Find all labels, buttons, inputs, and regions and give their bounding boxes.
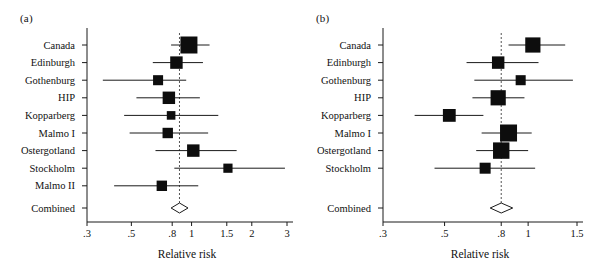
x-axis-tick-label: 1.5 bbox=[570, 228, 583, 239]
combined-effect-diamond bbox=[490, 203, 513, 213]
study-row: Ostergotland bbox=[317, 142, 528, 158]
study-label: HIP bbox=[58, 92, 75, 103]
study-row: Canada bbox=[340, 37, 566, 52]
x-axis-tick-label: .8 bbox=[168, 228, 176, 239]
forest-plot-figure: (a) .3.5.811.523Relative riskCanadaEdinb… bbox=[0, 0, 591, 271]
study-label: Malmo II bbox=[35, 180, 75, 191]
study-label: Kopparberg bbox=[321, 110, 372, 121]
panel-a: (a) .3.5.811.523Relative riskCanadaEdinb… bbox=[0, 0, 295, 271]
study-row: Malmo I bbox=[39, 128, 209, 139]
point-estimate-marker bbox=[493, 142, 509, 158]
point-estimate-marker bbox=[157, 181, 167, 191]
point-estimate-marker bbox=[491, 90, 506, 105]
study-label: Edinburgh bbox=[327, 57, 372, 68]
x-axis-tick-label: 3 bbox=[284, 228, 289, 239]
study-row: Stockholm bbox=[325, 163, 535, 174]
study-row: Ostergotland bbox=[21, 144, 237, 156]
study-label: Malmo I bbox=[335, 128, 372, 139]
point-estimate-marker bbox=[223, 164, 232, 173]
study-label: Canada bbox=[44, 40, 76, 51]
study-row: Gothenburg bbox=[321, 75, 573, 86]
point-estimate-marker bbox=[187, 144, 199, 156]
x-axis-tick-label: .5 bbox=[127, 228, 135, 239]
x-axis-tick-label: .3 bbox=[379, 228, 387, 239]
x-axis-tick-label: .3 bbox=[83, 228, 91, 239]
x-axis-title: Relative risk bbox=[451, 248, 510, 260]
point-estimate-marker bbox=[167, 111, 176, 120]
study-label: HIP bbox=[354, 92, 371, 103]
study-row: Gothenburg bbox=[25, 75, 186, 86]
study-label: Stockholm bbox=[325, 163, 371, 174]
study-label: Canada bbox=[340, 40, 372, 51]
x-axis-tick-label: 1 bbox=[526, 228, 531, 239]
study-label: Gothenburg bbox=[321, 75, 372, 86]
point-estimate-marker bbox=[163, 128, 173, 138]
point-estimate-marker bbox=[163, 92, 175, 104]
study-label: Edinburgh bbox=[31, 57, 76, 68]
study-row: Malmo I bbox=[335, 125, 532, 142]
study-label: Ostergotland bbox=[317, 145, 372, 156]
combined-row: Combined bbox=[327, 203, 512, 214]
point-estimate-marker bbox=[153, 75, 163, 85]
study-label: Malmo I bbox=[39, 128, 76, 139]
panel-a-plot: .3.5.811.523Relative riskCanadaEdinburgh… bbox=[0, 0, 295, 271]
study-row: Edinburgh bbox=[31, 56, 203, 68]
study-label: Ostergotland bbox=[21, 145, 76, 156]
x-axis-title: Relative risk bbox=[158, 248, 217, 260]
point-estimate-marker bbox=[170, 56, 182, 68]
study-row: Canada bbox=[44, 37, 210, 54]
point-estimate-marker bbox=[180, 37, 197, 54]
point-estimate-marker bbox=[492, 56, 504, 68]
study-row: Edinburgh bbox=[327, 56, 539, 68]
study-label: Kopparberg bbox=[25, 110, 76, 121]
study-row: Malmo II bbox=[35, 180, 198, 191]
point-estimate-marker bbox=[500, 125, 517, 142]
x-axis-tick-label: 1 bbox=[189, 228, 194, 239]
panel-b-plot: .3.5.811.5Relative riskCanadaEdinburghGo… bbox=[296, 0, 591, 271]
study-row: Kopparberg bbox=[321, 109, 483, 122]
study-row: Kopparberg bbox=[25, 110, 218, 121]
x-axis-tick-label: 1.5 bbox=[220, 228, 233, 239]
x-axis-tick-label: 2 bbox=[249, 228, 254, 239]
point-estimate-marker bbox=[480, 163, 491, 174]
study-row: HIP bbox=[58, 92, 200, 104]
combined-effect-diamond bbox=[171, 203, 188, 213]
combined-label: Combined bbox=[327, 203, 371, 214]
study-label: Stockholm bbox=[29, 163, 75, 174]
combined-label: Combined bbox=[31, 203, 75, 214]
study-label: Gothenburg bbox=[25, 75, 76, 86]
study-row: HIP bbox=[354, 90, 524, 105]
point-estimate-marker bbox=[525, 37, 540, 52]
panel-b: (b) .3.5.811.5Relative riskCanadaEdinbur… bbox=[296, 0, 591, 271]
point-estimate-marker bbox=[516, 75, 526, 85]
x-axis-tick-label: .8 bbox=[497, 228, 505, 239]
x-axis-tick-label: .5 bbox=[441, 228, 449, 239]
combined-row: Combined bbox=[31, 203, 188, 214]
study-row: Stockholm bbox=[29, 163, 284, 174]
point-estimate-marker bbox=[443, 109, 456, 122]
